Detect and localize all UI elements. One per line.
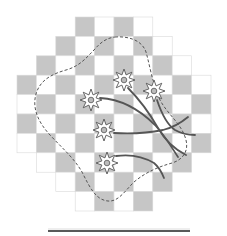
grid-cell xyxy=(56,75,75,94)
checkerboard-grid xyxy=(17,17,211,211)
grid-cell xyxy=(172,75,191,94)
grid-cell xyxy=(95,56,114,75)
grid-cell xyxy=(192,114,211,133)
grid-cell xyxy=(114,192,133,211)
flower-icon xyxy=(80,89,102,111)
grid-cell xyxy=(172,133,191,152)
grid-cell xyxy=(114,36,133,55)
grid-cell xyxy=(133,56,152,75)
grid-cell xyxy=(172,56,191,75)
grid-cell xyxy=(17,75,36,94)
flower-icon xyxy=(93,119,115,141)
flower-icon xyxy=(113,69,135,91)
grid-cell xyxy=(17,95,36,114)
grid-cell xyxy=(56,172,75,191)
grid-cell xyxy=(75,172,94,191)
grid-cell xyxy=(153,153,172,172)
grid-cell xyxy=(153,36,172,55)
grid-cell xyxy=(17,114,36,133)
grid-cell xyxy=(36,133,55,152)
grid-cell xyxy=(133,192,152,211)
grid-cell xyxy=(75,17,94,36)
grid-cell xyxy=(75,133,94,152)
grid-cell xyxy=(56,133,75,152)
grid-cell xyxy=(75,192,94,211)
grid-cell xyxy=(95,192,114,211)
grid-cell xyxy=(36,153,55,172)
grid-cell xyxy=(172,153,191,172)
grid-cell xyxy=(56,114,75,133)
grid-cell xyxy=(133,17,152,36)
grid-cell xyxy=(95,17,114,36)
grid-cell xyxy=(172,95,191,114)
grid-cell xyxy=(75,114,94,133)
grid-cell xyxy=(114,133,133,152)
grid-cell xyxy=(75,56,94,75)
grid-cell xyxy=(192,95,211,114)
grid-cell xyxy=(36,56,55,75)
grid-cell xyxy=(95,172,114,191)
grid-cell xyxy=(133,114,152,133)
grid-cell xyxy=(133,133,152,152)
grid-cell xyxy=(192,133,211,152)
flower-icon xyxy=(96,152,118,174)
grid-cell xyxy=(17,133,36,152)
grid-cell xyxy=(192,75,211,94)
grid-cell xyxy=(56,36,75,55)
grid-cell xyxy=(114,172,133,191)
grid-cell xyxy=(36,75,55,94)
grid-cell xyxy=(114,114,133,133)
grid-cell xyxy=(56,95,75,114)
grid-cell xyxy=(114,17,133,36)
grid-cell xyxy=(36,95,55,114)
grid-cell xyxy=(153,56,172,75)
grid-cell xyxy=(56,56,75,75)
grid-cell xyxy=(95,75,114,94)
grid-cell xyxy=(56,153,75,172)
checkerboard-flower-diagram xyxy=(0,0,227,236)
flower-icon xyxy=(143,80,165,102)
grid-cell xyxy=(75,153,94,172)
